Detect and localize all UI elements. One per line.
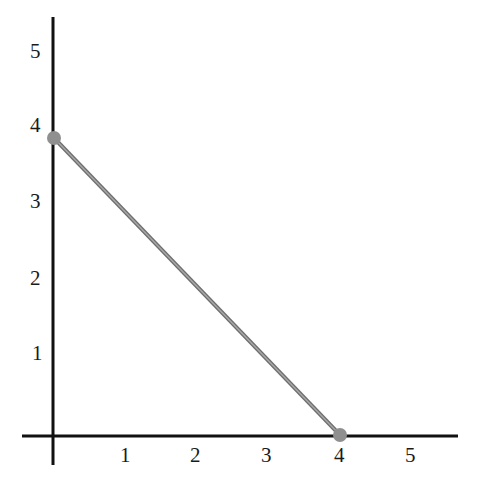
chart: 5 4 3 2 1 1 2 3 4 5 (0, 0, 481, 487)
x-tick-label: 4 (334, 443, 345, 467)
y-tick-label: 4 (30, 113, 41, 137)
x-tick-labels: 1 2 3 4 5 (120, 443, 416, 467)
data-point (333, 428, 347, 442)
x-tick-label: 1 (120, 443, 131, 467)
y-tick-label: 3 (30, 189, 41, 213)
y-tick-label: 2 (30, 266, 41, 290)
data-point (47, 131, 61, 145)
x-tick-label: 2 (190, 443, 201, 467)
y-tick-labels: 5 4 3 2 1 (30, 39, 43, 365)
x-tick-label: 3 (261, 443, 272, 467)
y-tick-label: 1 (32, 341, 43, 365)
y-tick-label: 5 (30, 39, 41, 63)
x-tick-label: 5 (405, 443, 416, 467)
